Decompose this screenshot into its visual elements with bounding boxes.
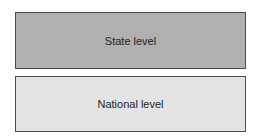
national-level-box: National level (15, 76, 246, 132)
state-level-label: State level (105, 35, 156, 47)
state-level-box: State level (15, 12, 246, 69)
national-level-label: National level (97, 98, 163, 110)
